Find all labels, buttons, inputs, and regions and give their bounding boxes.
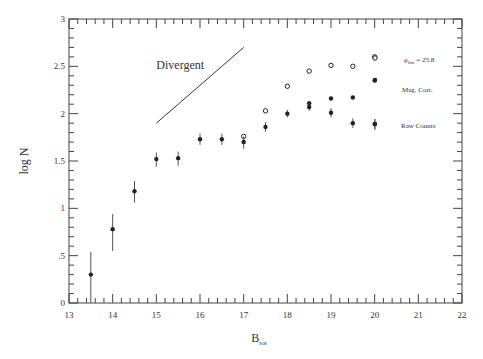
data-point (132, 189, 136, 193)
data-point (329, 111, 333, 115)
y-tick-label: 1 (61, 203, 66, 213)
data-points (89, 55, 377, 303)
legend-item-raw-counts: Raw Counts (401, 122, 436, 130)
data-point (263, 109, 267, 113)
y-tick-label: 0 (61, 298, 66, 308)
y-tick-label: 1.5 (54, 156, 66, 166)
legend-item-mag-corr: Mag. Corr. (402, 86, 433, 94)
divergent-label: Divergent (156, 58, 204, 72)
x-tick-label: 16 (196, 310, 206, 320)
x-axis-label: Btot (251, 331, 266, 347)
series-open-circle (241, 55, 376, 139)
x-tick-label: 22 (458, 310, 467, 320)
legend-filled-circle-icon (373, 78, 377, 82)
series-filled-circle-errorbar (89, 103, 377, 303)
data-point (285, 84, 289, 88)
data-point (329, 63, 333, 67)
data-point (307, 69, 311, 73)
legend-raw-marker-icon (373, 122, 377, 126)
legend-item-mulim: μlim = 25.8 (404, 56, 435, 65)
y-tick-label: 2 (61, 109, 66, 119)
x-tick-label: 14 (108, 310, 118, 320)
y-tick-label: 2.5 (54, 61, 66, 71)
data-point (351, 121, 355, 125)
data-point (351, 95, 355, 99)
x-tick-label: 15 (152, 310, 162, 320)
y-tick-label: 3 (61, 14, 66, 24)
x-tick-label: 21 (414, 310, 423, 320)
data-point (220, 137, 224, 141)
legend-open-circle-icon (373, 56, 377, 60)
legend: μlim = 25.8 Mag. Corr. Raw Counts (373, 56, 436, 130)
y-tick-label: .5 (58, 251, 65, 261)
y-axis-label: log N (17, 147, 31, 174)
x-tick-label: 13 (65, 310, 75, 320)
series-filled-circle (307, 78, 377, 105)
x-tick-label: 19 (327, 310, 337, 320)
x-tick-label: 18 (283, 310, 293, 320)
data-point (154, 157, 158, 161)
data-point (263, 125, 267, 129)
data-point (351, 64, 355, 68)
data-point (198, 137, 202, 141)
data-point (110, 227, 114, 231)
data-point (307, 105, 311, 109)
chart: 131415161718192021220.511.522.53 Diverge… (0, 0, 483, 359)
data-point (176, 156, 180, 160)
data-point (329, 96, 333, 100)
x-tick-label: 17 (239, 310, 249, 320)
data-point (285, 111, 289, 115)
x-tick-label: 20 (370, 310, 380, 320)
data-point (241, 140, 245, 144)
divergent-annotation: Divergent (156, 47, 243, 123)
data-point (89, 272, 93, 276)
